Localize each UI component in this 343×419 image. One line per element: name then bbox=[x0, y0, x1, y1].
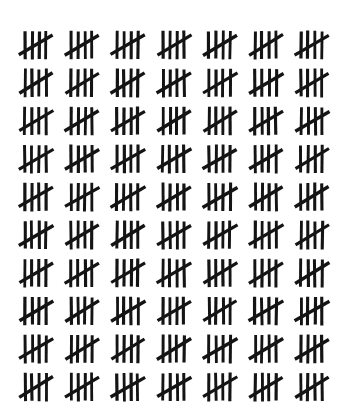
tally-group bbox=[104, 64, 150, 102]
tally-group bbox=[58, 64, 104, 102]
tally-group bbox=[288, 102, 334, 140]
tally-group bbox=[196, 140, 242, 178]
tally-group bbox=[58, 254, 104, 292]
tally-group bbox=[196, 26, 242, 64]
tally-group bbox=[12, 26, 58, 64]
tally-group bbox=[242, 292, 288, 330]
tally-group bbox=[104, 368, 150, 406]
tally-group bbox=[242, 216, 288, 254]
tally-group bbox=[242, 178, 288, 216]
tally-group bbox=[104, 254, 150, 292]
tally-group bbox=[150, 292, 196, 330]
tally-group bbox=[58, 330, 104, 368]
tally-group bbox=[242, 368, 288, 406]
tally-group bbox=[196, 292, 242, 330]
tally-group bbox=[104, 178, 150, 216]
tally-row bbox=[0, 292, 343, 330]
tally-group bbox=[196, 102, 242, 140]
tally-group bbox=[12, 140, 58, 178]
tally-row bbox=[0, 64, 343, 102]
tally-group bbox=[12, 64, 58, 102]
tally-group bbox=[242, 64, 288, 102]
tally-group bbox=[58, 292, 104, 330]
tally-mark-field bbox=[0, 0, 343, 419]
tally-group bbox=[12, 368, 58, 406]
tally-group bbox=[150, 368, 196, 406]
tally-group bbox=[196, 254, 242, 292]
tally-group bbox=[196, 330, 242, 368]
tally-group bbox=[196, 368, 242, 406]
tally-group bbox=[288, 330, 334, 368]
tally-group bbox=[150, 216, 196, 254]
tally-group bbox=[150, 26, 196, 64]
tally-group bbox=[242, 26, 288, 64]
tally-canvas bbox=[0, 0, 343, 419]
tally-group bbox=[58, 368, 104, 406]
tally-group bbox=[242, 102, 288, 140]
tally-row bbox=[0, 254, 343, 292]
tally-row bbox=[0, 178, 343, 216]
tally-group bbox=[288, 64, 334, 102]
tally-group bbox=[58, 216, 104, 254]
tally-group bbox=[58, 102, 104, 140]
tally-group bbox=[288, 140, 334, 178]
tally-row bbox=[0, 102, 343, 140]
tally-group bbox=[104, 140, 150, 178]
tally-row bbox=[0, 330, 343, 368]
tally-group bbox=[288, 368, 334, 406]
tally-group bbox=[104, 330, 150, 368]
tally-row bbox=[0, 216, 343, 254]
tally-group bbox=[104, 216, 150, 254]
tally-group bbox=[58, 26, 104, 64]
tally-group bbox=[288, 26, 334, 64]
tally-group bbox=[12, 102, 58, 140]
tally-group bbox=[12, 254, 58, 292]
tally-group bbox=[12, 178, 58, 216]
tally-group bbox=[12, 292, 58, 330]
tally-group bbox=[12, 330, 58, 368]
tally-group bbox=[104, 102, 150, 140]
tally-group bbox=[288, 254, 334, 292]
tally-group bbox=[288, 216, 334, 254]
tally-group bbox=[150, 64, 196, 102]
tally-row bbox=[0, 26, 343, 64]
tally-group bbox=[58, 178, 104, 216]
tally-group bbox=[196, 216, 242, 254]
tally-group bbox=[12, 216, 58, 254]
tally-group bbox=[242, 254, 288, 292]
tally-group bbox=[104, 292, 150, 330]
tally-group bbox=[58, 140, 104, 178]
tally-group bbox=[196, 64, 242, 102]
tally-group bbox=[150, 140, 196, 178]
tally-group bbox=[288, 292, 334, 330]
tally-row bbox=[0, 368, 343, 406]
tally-group bbox=[150, 330, 196, 368]
tally-row bbox=[0, 140, 343, 178]
tally-group bbox=[242, 330, 288, 368]
tally-group bbox=[242, 140, 288, 178]
tally-group bbox=[196, 178, 242, 216]
tally-group bbox=[150, 178, 196, 216]
tally-group bbox=[150, 254, 196, 292]
tally-group bbox=[150, 102, 196, 140]
tally-group bbox=[288, 178, 334, 216]
tally-group bbox=[104, 26, 150, 64]
